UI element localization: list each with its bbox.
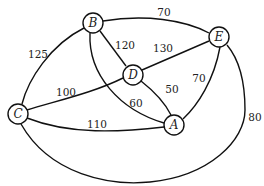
weight-D-A: 50 xyxy=(165,83,178,95)
weight-B-D: 120 xyxy=(115,39,135,51)
svg-text:B: B xyxy=(88,16,98,30)
svg-text:E: E xyxy=(214,30,224,44)
svg-text:C: C xyxy=(13,107,22,121)
node-A: A xyxy=(164,115,184,135)
node-C: C xyxy=(8,104,28,124)
weight-C-D: 100 xyxy=(56,86,76,98)
graph-svg: 125 70 120 130 100 60 50 70 110 80 A B C… xyxy=(0,0,264,186)
weight-B-A: 60 xyxy=(129,97,142,109)
weight-C-A: 110 xyxy=(87,118,107,130)
svg-text:D: D xyxy=(127,68,138,82)
weight-D-E: 130 xyxy=(153,42,173,54)
node-E: E xyxy=(209,27,229,47)
weight-C-E: 80 xyxy=(248,111,261,123)
graph-diagram: 125 70 120 130 100 60 50 70 110 80 A B C… xyxy=(0,0,264,186)
edge-B-E xyxy=(103,18,209,33)
weight-B-E: 70 xyxy=(157,6,170,18)
svg-text:A: A xyxy=(169,118,179,132)
weight-B-C: 125 xyxy=(28,48,48,60)
weight-E-A: 70 xyxy=(192,72,205,84)
node-D: D xyxy=(123,65,143,85)
node-B: B xyxy=(83,13,103,33)
